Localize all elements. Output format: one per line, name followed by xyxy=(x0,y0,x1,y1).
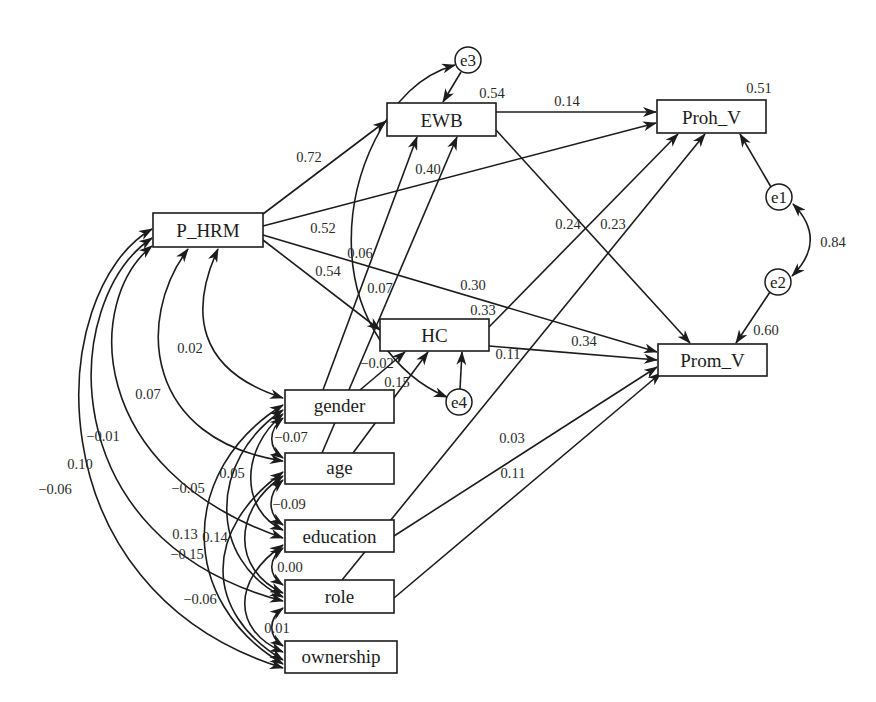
node-age: age xyxy=(285,453,394,484)
cov-label-gender-age: −0.07 xyxy=(274,429,308,445)
e1-label: e1 xyxy=(771,188,787,207)
coef-phrm-ewb: 0.72 xyxy=(296,149,321,165)
cov-label-phrm-age: 0.07 xyxy=(135,386,160,402)
education-label: education xyxy=(303,526,377,547)
cov-label-phrm-education: −0.01 xyxy=(86,428,120,444)
prom-v-label: Prom_V xyxy=(680,350,745,371)
age-label: age xyxy=(326,457,352,478)
node-hc: HC xyxy=(380,319,489,351)
cov-label-phrm-ownership: −0.06 xyxy=(38,481,72,497)
p-hrm-label: P_HRM xyxy=(176,220,239,241)
covariance-labels: 0.84 −0.02 0.02 0.07 −0.01 0.10 −0.06 −0… xyxy=(38,234,846,636)
node-proh-v: Proh_V xyxy=(657,100,766,133)
cov-label-phrm-gender: 0.02 xyxy=(177,340,202,356)
coef-gender-ewb: 0.40 xyxy=(415,161,440,177)
node-gender: gender xyxy=(285,390,394,423)
coef-ewb-prohv: 0.14 xyxy=(554,93,580,109)
coef-phrm-hc: 0.54 xyxy=(315,263,341,279)
path-phrm-prohv xyxy=(263,123,656,226)
cov-label-gender-education: 0.05 xyxy=(219,465,244,481)
prom-v-r2: 0.60 xyxy=(753,322,778,338)
cov-label-age-role: 0.13 xyxy=(172,526,197,542)
node-ownership: ownership xyxy=(285,641,397,673)
cov-phrm-gender xyxy=(203,249,283,398)
proh-v-label: Proh_V xyxy=(682,107,741,128)
cov-label-age-ownership: −0.15 xyxy=(170,546,204,562)
coef-hc-promv: 0.34 xyxy=(571,333,597,349)
coef-gender-hc: 0.15 xyxy=(384,374,409,390)
cov-phrm-ownership xyxy=(79,229,283,668)
path-education-promv xyxy=(394,367,657,536)
path-e4-hc xyxy=(460,352,462,389)
cov-label-education-role: 0.00 xyxy=(277,559,302,575)
ownership-label: ownership xyxy=(301,646,380,667)
e3-label: e3 xyxy=(460,51,476,70)
cov-label-gender-ownership: −0.06 xyxy=(183,591,217,607)
node-prom-v: Prom_V xyxy=(658,344,767,376)
cov-label-e3-e4: −0.02 xyxy=(360,355,394,371)
proh-v-r2: 0.51 xyxy=(746,80,771,96)
node-education: education xyxy=(285,520,394,552)
path-e1-prohv xyxy=(740,134,771,187)
path-ewb-promv xyxy=(496,130,690,343)
error-e1: e1 xyxy=(766,184,792,210)
coef-ewb-promv: 0.24 xyxy=(555,216,581,232)
coef-education-promv: 0.03 xyxy=(499,430,524,446)
directed-paths xyxy=(263,72,771,598)
role-label: role xyxy=(325,586,355,607)
node-ewb: EWB xyxy=(387,103,496,136)
hc-label: HC xyxy=(421,325,447,346)
path-phrm-ewb xyxy=(263,121,386,214)
path-role-prohv xyxy=(342,134,705,580)
path-role-promv xyxy=(394,373,661,598)
e4-label: e4 xyxy=(451,393,468,412)
coef-role-prohv: 0.11 xyxy=(496,346,521,362)
path-e3-ewb xyxy=(443,72,461,102)
error-e3: e3 xyxy=(455,47,481,73)
error-e4: e4 xyxy=(446,389,472,415)
coef-age-hc: 0.07 xyxy=(367,280,392,296)
cov-label-phrm-role: 0.10 xyxy=(67,456,92,472)
coef-phrm-promv: 0.30 xyxy=(460,277,485,293)
cov-label-age-education: −0.09 xyxy=(272,496,306,512)
coef-role-promv: 0.11 xyxy=(501,465,526,481)
error-e2: e2 xyxy=(765,269,791,295)
cov-e1-e2 xyxy=(792,204,810,276)
ewb-r2: 0.54 xyxy=(479,85,505,101)
node-p-hrm: P_HRM xyxy=(153,213,263,247)
cov-age-role xyxy=(245,476,283,593)
node-role: role xyxy=(285,580,394,613)
gender-label: gender xyxy=(314,395,366,416)
coef-phrm-prohv: 0.52 xyxy=(310,220,335,236)
coef-age-ewb: 0.06 xyxy=(347,245,372,261)
hc-r2: 0.33 xyxy=(470,302,495,318)
cov-label-role-ownership: 0.01 xyxy=(264,620,289,636)
path-diagram: EWB Proh_V P_HRM HC Prom_V gender age ed… xyxy=(0,0,876,702)
cov-label-education-ownership: 0.14 xyxy=(202,529,228,545)
e2-label: e2 xyxy=(770,273,786,292)
ewb-label: EWB xyxy=(420,110,462,131)
cov-label-e1-e2: 0.84 xyxy=(820,234,846,250)
coef-hc-prohv: 0.23 xyxy=(600,216,625,232)
cov-label-gender-role: −0.05 xyxy=(171,480,205,496)
diagram-svg: EWB Proh_V P_HRM HC Prom_V gender age ed… xyxy=(0,0,876,702)
